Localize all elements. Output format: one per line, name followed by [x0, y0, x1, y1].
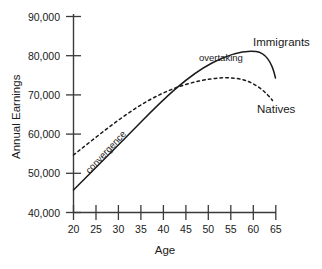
y-tick-label-50000: 50,000: [12, 168, 60, 179]
x-tick-label-35: 35: [135, 224, 147, 235]
x-tick-label-60: 60: [247, 224, 259, 235]
y-tick-label-40000: 40,000: [12, 207, 60, 218]
series-label-natives: Natives: [257, 103, 295, 115]
series-label-immigrants: Immigrants: [253, 36, 310, 48]
x-tick-label-50: 50: [202, 224, 214, 235]
x-tick-label-45: 45: [180, 224, 192, 235]
y-tick-label-80000: 80,000: [12, 50, 60, 61]
x-tick-label-20: 20: [68, 224, 80, 235]
y-tick-label-90000: 90,000: [12, 11, 60, 22]
x-tick-label-55: 55: [225, 224, 237, 235]
earnings-age-chart: 90,000 80,000 70,000 60,000 50,000 40,00…: [0, 0, 322, 269]
annotation-overtaking: overtaking: [199, 52, 243, 63]
x-tick-label-25: 25: [90, 224, 102, 235]
x-axis-title: Age: [155, 244, 175, 256]
series-line-natives: [74, 78, 273, 155]
x-tick-label-40: 40: [158, 224, 170, 235]
series-line-immigrants: [74, 51, 276, 190]
y-axis-title: Annual Earnings: [10, 75, 22, 159]
x-tick-label-65: 65: [270, 224, 282, 235]
x-tick-label-30: 30: [113, 224, 125, 235]
